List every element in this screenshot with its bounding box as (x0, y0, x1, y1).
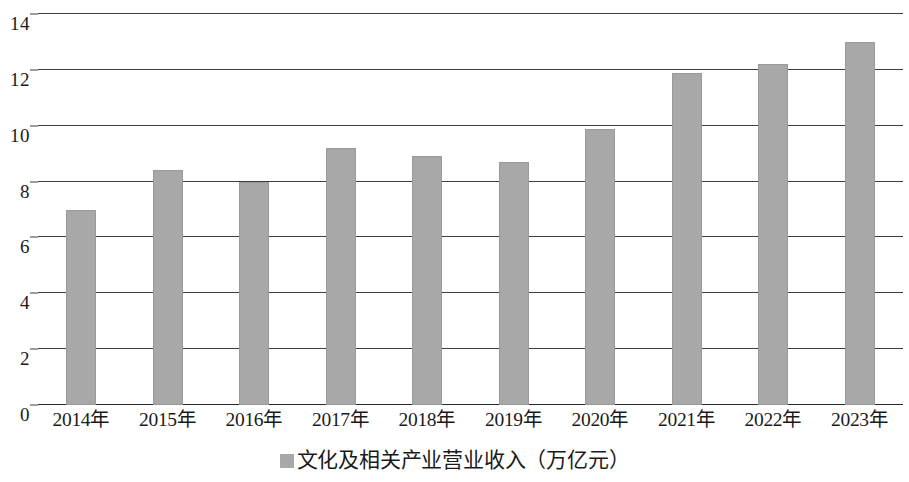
legend-square-marker-icon (280, 454, 294, 468)
bar (758, 64, 788, 405)
bar (239, 182, 269, 405)
x-axis-tick-label: 2021年 (644, 409, 731, 431)
x-axis-tick-label: 2016年 (211, 409, 298, 431)
y-axis-tick-mark (30, 14, 38, 15)
bar-slot (817, 14, 904, 405)
x-axis-tick-label: 2014年 (38, 409, 125, 431)
bar-slot (298, 14, 385, 405)
bar (412, 156, 442, 405)
y-axis-tick-mark (30, 349, 38, 350)
x-axis-tick-label: 2019年 (471, 409, 558, 431)
legend-item: 文化及相关产业营业收入（万亿元） (280, 450, 630, 471)
y-axis-tick-mark (30, 405, 38, 406)
bar (499, 162, 529, 405)
x-axis-tick-label: 2018年 (384, 409, 471, 431)
bar-slot (471, 14, 558, 405)
bar (153, 170, 183, 405)
y-axis-tick-mark (30, 125, 38, 126)
chart-legend: 文化及相关产业营业收入（万亿元） (0, 450, 909, 471)
y-axis-tick-mark (30, 69, 38, 70)
bar (326, 148, 356, 405)
y-axis-tick-mark (30, 181, 38, 182)
legend-label: 文化及相关产业营业收入（万亿元） (297, 450, 630, 471)
x-axis-tick-label: 2020年 (557, 409, 644, 431)
bar-slot (644, 14, 731, 405)
bar-chart: 02468101214 2014年2015年2016年2017年2018年201… (0, 0, 909, 482)
bar (672, 73, 702, 405)
plot-area (38, 14, 903, 405)
bar-series (38, 14, 903, 405)
x-axis-tick-label: 2023年 (817, 409, 904, 431)
x-axis-tick-label: 2022年 (730, 409, 817, 431)
bar-slot (125, 14, 212, 405)
bar-slot (38, 14, 125, 405)
bar-slot (211, 14, 298, 405)
x-axis-labels: 2014年2015年2016年2017年2018年2019年2020年2021年… (38, 409, 903, 431)
bar (845, 42, 875, 405)
x-axis-tick-label: 2017年 (298, 409, 385, 431)
bar (66, 210, 96, 406)
bar-slot (557, 14, 644, 405)
bar-slot (730, 14, 817, 405)
y-axis-tick-mark (30, 293, 38, 294)
y-axis-tick-mark (30, 237, 38, 238)
bar (585, 129, 615, 405)
x-axis-tick-label: 2015年 (125, 409, 212, 431)
y-axis: 02468101214 (0, 14, 30, 405)
bar-slot (384, 14, 471, 405)
